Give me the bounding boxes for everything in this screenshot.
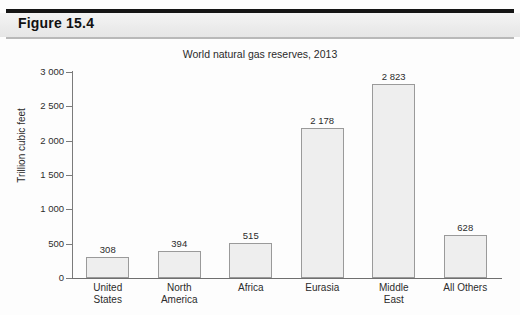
bar[interactable] bbox=[86, 257, 129, 278]
y-axis-tick-label: 2 500 bbox=[12, 100, 64, 111]
y-axis-tick bbox=[66, 209, 72, 210]
y-axis-tick-label: 2 000 bbox=[12, 135, 64, 146]
y-axis-tick-label: 0 bbox=[12, 272, 64, 283]
y-axis-tick-label: 3 000 bbox=[12, 66, 64, 77]
bar-value-label: 628 bbox=[424, 222, 508, 233]
y-axis-tick-label: 1 000 bbox=[12, 203, 64, 214]
x-axis-category-label: All Others bbox=[424, 282, 508, 294]
bar-chart-plot-area: Trillion cubic feet 3 0002 5002 0001 500… bbox=[0, 0, 520, 315]
y-axis-tick bbox=[66, 106, 72, 107]
bar[interactable] bbox=[301, 128, 344, 278]
figure-root: Figure 15.4 World natural gas reserves, … bbox=[0, 0, 520, 315]
bar[interactable] bbox=[158, 251, 201, 278]
bar[interactable] bbox=[229, 243, 272, 278]
y-axis-tick bbox=[66, 175, 72, 176]
y-axis-tick bbox=[66, 141, 72, 142]
bar[interactable] bbox=[372, 84, 415, 278]
y-axis-tick-label: 1 500 bbox=[12, 169, 64, 180]
x-axis-line bbox=[72, 278, 502, 279]
y-axis-tick-label: 500 bbox=[12, 238, 64, 249]
bar-value-label: 515 bbox=[209, 230, 293, 241]
bar[interactable] bbox=[444, 235, 487, 278]
bar-value-label: 2 178 bbox=[281, 115, 365, 126]
y-axis-tick bbox=[66, 72, 72, 73]
bar-value-label: 2 823 bbox=[352, 71, 436, 82]
y-axis-tick bbox=[66, 278, 72, 279]
